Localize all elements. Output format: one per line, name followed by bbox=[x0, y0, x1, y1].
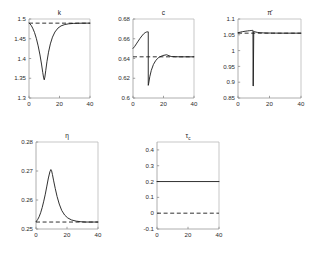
y-tick-label: 1 bbox=[232, 47, 236, 54]
x-tick-label: 20 bbox=[266, 100, 273, 107]
x-tick-label: 40 bbox=[87, 100, 94, 107]
chart-panel-c: c0.60.620.640.660.6802040 bbox=[107, 7, 197, 109]
y-tick-label: 0.64 bbox=[118, 55, 130, 62]
x-tick-label: 20 bbox=[64, 231, 71, 238]
y-tick-label: 0.26 bbox=[21, 196, 33, 203]
y-tick-label: 1.35 bbox=[14, 74, 26, 81]
x-tick-label: 40 bbox=[191, 100, 198, 107]
y-tick-label: 0.9 bbox=[227, 78, 236, 85]
x-tick-label: 0 bbox=[27, 100, 31, 107]
y-tick-label: 1.1 bbox=[227, 15, 236, 22]
chart-title-k: k bbox=[58, 9, 62, 16]
y-tick-label: 1.05 bbox=[223, 31, 235, 38]
y-tick-label: 0.2 bbox=[146, 178, 155, 185]
x-tick-label: 0 bbox=[34, 231, 38, 238]
y-tick-label: 0.85 bbox=[223, 94, 235, 101]
y-tick-label: 0.28 bbox=[21, 138, 33, 145]
chart-panel-k: k1.31.351.41.451.502040 bbox=[3, 7, 93, 109]
y-tick-label: 0.95 bbox=[223, 63, 235, 70]
y-tick-label: 0.4 bbox=[146, 146, 155, 153]
y-tick-label: 0.1 bbox=[146, 193, 155, 200]
y-tick-label: 1.5 bbox=[18, 15, 27, 22]
series-c-response bbox=[133, 32, 194, 86]
series-k-response bbox=[29, 23, 90, 80]
y-tick-label: 0.62 bbox=[118, 74, 130, 81]
x-tick-label: 40 bbox=[216, 231, 223, 238]
y-tick-label: 0.68 bbox=[118, 15, 130, 22]
y-tick-label: 1.45 bbox=[14, 35, 26, 42]
x-tick-label: 0 bbox=[236, 100, 240, 107]
x-tick-label: 0 bbox=[155, 231, 159, 238]
y-tick-label: 0 bbox=[151, 209, 155, 216]
y-tick-label: 0.3 bbox=[146, 162, 155, 169]
y-tick-label: 0.25 bbox=[21, 225, 33, 232]
y-tick-label: 1.4 bbox=[18, 55, 27, 62]
chart-panel-tau_c: τc-0.100.10.20.30.402040 bbox=[131, 130, 222, 240]
y-tick-label: 0.27 bbox=[21, 167, 33, 174]
x-tick-label: 0 bbox=[131, 100, 135, 107]
chart-title-pi_bar: π̄ bbox=[267, 9, 273, 16]
y-tick-label: 0.66 bbox=[118, 35, 130, 42]
x-tick-label: 20 bbox=[185, 231, 192, 238]
chart-panel-eta: η0.250.260.270.2802040 bbox=[10, 130, 101, 240]
y-tick-label: 0.6 bbox=[122, 94, 131, 101]
x-tick-label: 40 bbox=[95, 231, 102, 238]
series-eta-response bbox=[36, 170, 98, 222]
impulse-response-figure: k1.31.351.41.451.502040c0.60.620.640.660… bbox=[0, 0, 316, 254]
x-tick-label: 40 bbox=[298, 100, 305, 107]
y-tick-label: -0.1 bbox=[143, 225, 154, 232]
x-tick-label: 20 bbox=[56, 100, 63, 107]
chart-title-c: c bbox=[162, 9, 166, 16]
x-tick-label: 20 bbox=[160, 100, 167, 107]
series-pi_bar-response bbox=[238, 30, 301, 86]
chart-panel-pi_bar: π̄0.850.90.9511.051.102040 bbox=[212, 7, 304, 109]
chart-title-tau_c: τc bbox=[186, 132, 192, 141]
chart-title-eta: η bbox=[65, 132, 69, 140]
y-tick-label: 1.3 bbox=[18, 94, 27, 101]
